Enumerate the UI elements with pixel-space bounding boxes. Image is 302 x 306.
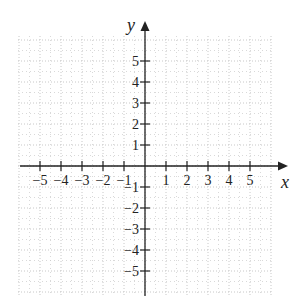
x-tick-label: 1: [163, 173, 170, 188]
y-tick-label: 2: [132, 117, 139, 132]
axes: [20, 21, 288, 296]
y-tick-label: −1: [124, 180, 139, 195]
y-tick-label: −3: [124, 222, 139, 237]
y-tick-label: 4: [132, 75, 139, 90]
x-tick-label: 4: [226, 173, 233, 188]
y-tick-label: −5: [124, 264, 139, 279]
y-axis-label: y: [125, 15, 135, 35]
x-tick-label: 2: [184, 173, 191, 188]
x-tick-label: −2: [96, 173, 111, 188]
x-tick-label: 5: [247, 173, 254, 188]
y-tick-label: 1: [132, 138, 139, 153]
x-tick-label: 3: [205, 173, 212, 188]
x-tick-label: −3: [75, 173, 90, 188]
y-tick-label: −4: [124, 243, 139, 258]
y-tick-label: 3: [132, 96, 139, 111]
x-tick-label: −5: [33, 173, 48, 188]
y-tick-label: 5: [132, 54, 139, 69]
x-tick-label: −4: [54, 173, 69, 188]
x-axis-arrow-icon: [278, 162, 288, 171]
x-axis-label: x: [280, 172, 289, 192]
y-tick-label: −2: [124, 201, 139, 216]
coordinate-plane: −5−4−3−2−112345−5−4−3−2−112345 x y: [0, 0, 302, 306]
y-axis-arrow-icon: [141, 21, 150, 31]
